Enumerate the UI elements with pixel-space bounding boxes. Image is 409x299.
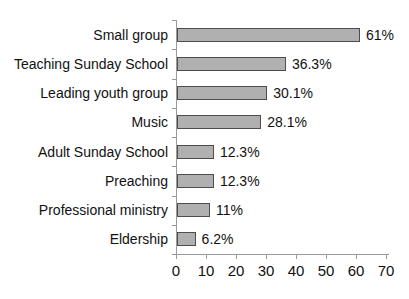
bar	[177, 28, 360, 42]
x-tick-label: 40	[281, 262, 311, 280]
x-tick-label: 70	[371, 262, 401, 280]
y-tick-mark	[172, 137, 176, 138]
x-tick-label: 60	[341, 262, 371, 280]
x-axis-line	[176, 254, 389, 255]
x-tick-mark	[266, 255, 267, 259]
y-tick-mark	[172, 166, 176, 167]
bar-chart: Small group61%Teaching Sunday School36.3…	[0, 0, 409, 299]
x-tick-mark	[356, 255, 357, 259]
value-label: 12.3%	[220, 143, 260, 161]
category-label: Teaching Sunday School	[0, 55, 168, 73]
bar	[177, 232, 196, 246]
bar	[177, 115, 261, 129]
x-tick-label: 20	[221, 262, 251, 280]
y-tick-mark	[172, 225, 176, 226]
value-label: 11%	[216, 201, 243, 219]
x-tick-label: 30	[251, 262, 281, 280]
value-label: 30.1%	[273, 84, 313, 102]
value-label: 12.3%	[220, 172, 260, 190]
value-label: 28.1%	[267, 113, 307, 131]
category-label: Professional ministry	[0, 201, 168, 219]
category-label: Leading youth group	[0, 84, 168, 102]
x-tick-label: 0	[161, 262, 191, 280]
bar	[177, 203, 210, 217]
y-tick-mark	[172, 20, 176, 21]
bar	[177, 86, 267, 100]
x-tick-mark	[206, 255, 207, 259]
y-tick-mark	[172, 49, 176, 50]
x-tick-mark	[386, 255, 387, 259]
y-axis-line	[176, 20, 177, 255]
category-label: Music	[0, 113, 168, 131]
category-label: Eldership	[0, 230, 168, 248]
x-tick-mark	[296, 255, 297, 259]
x-tick-label: 50	[311, 262, 341, 280]
bar	[177, 57, 286, 71]
value-label: 6.2%	[202, 230, 234, 248]
x-tick-mark	[326, 255, 327, 259]
y-tick-mark	[172, 79, 176, 80]
bar	[177, 174, 214, 188]
value-label: 61%	[366, 26, 394, 44]
x-tick-label: 10	[191, 262, 221, 280]
bar	[177, 145, 214, 159]
value-label: 36.3%	[292, 55, 332, 73]
x-tick-mark	[176, 255, 177, 259]
x-tick-mark	[236, 255, 237, 259]
y-tick-mark	[172, 108, 176, 109]
y-tick-mark	[172, 196, 176, 197]
category-label: Adult Sunday School	[0, 143, 168, 161]
category-label: Preaching	[0, 172, 168, 190]
category-label: Small group	[0, 26, 168, 44]
